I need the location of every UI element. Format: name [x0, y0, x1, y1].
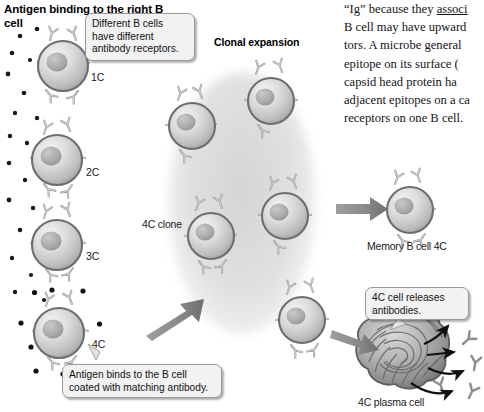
cell-label-2c: 2C [86, 166, 99, 178]
prose-line-7: receptors on one B cell. [344, 109, 484, 127]
callout-receptors: Different B cells have different antibod… [85, 13, 195, 61]
plasma-cell-label: 4C plasma cell [358, 396, 424, 408]
callout-binding: Antigen binds to the B cell coated with … [62, 364, 222, 398]
arrow-to-memory [336, 197, 388, 221]
prose-line-3: tors. A microbe general [344, 36, 484, 54]
prose-line-4: epitope on its surface ( [344, 55, 484, 73]
callout-release: 4C cell releases antibodies. [365, 287, 469, 320]
clonal-expansion-heading: Clonal expansion [214, 36, 299, 48]
prose-line-6: adjacent epitopes on a ca [344, 91, 484, 109]
cell-label-3c: 3C [86, 250, 99, 262]
prose-line-2: B cell may have upward [344, 18, 484, 36]
b-cell-clonal-selection-figure: Antigen binding to the right B cell Clon… [0, 0, 484, 412]
b-cell-2c [30, 118, 86, 198]
memory-cell-label: Memory B cell 4C [367, 240, 447, 252]
cell-label-1c: 1C [91, 71, 104, 83]
b-cell-1c [37, 27, 90, 104]
clone-cell-4 [184, 195, 237, 274]
prose-line-1: “Ig” because they associ [344, 0, 484, 18]
body-text-column: “Ig” because they associ B cell may have… [344, 0, 484, 127]
b-cell-3c [30, 203, 86, 282]
clone-cell-1 [165, 85, 217, 163]
clone-cell-2 [244, 59, 298, 138]
arrow-activation [146, 299, 204, 341]
clone-cell-3 [258, 175, 312, 254]
cell-label-4c: 4C [92, 338, 105, 350]
clone-label: 4C clone [142, 218, 182, 230]
clone-cell-5 [275, 279, 329, 358]
prose-line-5: capsid head protein ha [344, 73, 484, 91]
memory-b-cell-4c [383, 169, 436, 248]
